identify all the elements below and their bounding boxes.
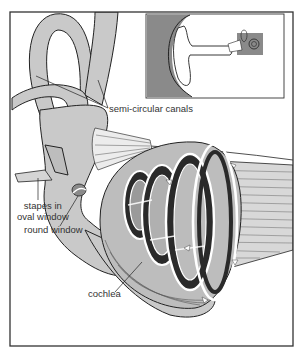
inset-outer-ear [146,14,284,98]
label-semicircular-canals: semi-circular canals [109,104,193,115]
cochlea-coil-3 [166,154,214,290]
label-stapes-line2: oval window [17,212,69,223]
label-round-window: round window [24,225,83,236]
cochlea [100,142,241,308]
round-window [72,184,86,196]
label-cochlea: cochlea [88,289,121,300]
label-stapes-line1: stapes in [17,201,69,212]
inner-ear-illustration [0,0,307,363]
label-stapes-in-oval-window: stapes in oval window [17,201,69,222]
